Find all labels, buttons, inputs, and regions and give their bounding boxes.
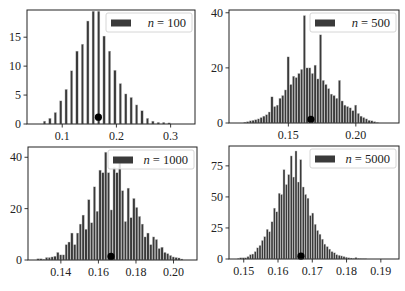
histogram-bar <box>81 44 83 124</box>
histogram-bar <box>273 208 275 259</box>
histogram-bar <box>325 84 327 123</box>
histogram-bar <box>59 255 61 260</box>
y-tick-label: 75 <box>211 159 223 173</box>
histogram-bar <box>92 11 94 124</box>
y-tick-label: 40 <box>211 6 223 20</box>
histogram-bar <box>290 156 292 259</box>
panel-n-100: n = 100 0.10.20.3051015n = 100 <box>9 10 195 143</box>
histogram-bar <box>259 245 261 259</box>
histogram-bar <box>130 218 132 260</box>
histogram-bar <box>293 177 295 259</box>
histogram-bar <box>97 11 99 124</box>
x-tick-label: 0.15 <box>233 264 254 278</box>
histogram-bar <box>271 222 273 259</box>
histogram-bar <box>260 117 262 123</box>
histogram-bar <box>324 244 326 259</box>
histogram-bar <box>288 175 290 259</box>
legend-text: n = 1000 <box>143 153 188 167</box>
histogram-bar <box>107 173 109 260</box>
histogram-bar <box>317 230 319 259</box>
histogram-bar <box>141 224 143 260</box>
histogram-bar <box>79 224 81 260</box>
histogram-bar <box>363 117 365 123</box>
histogram-bar <box>352 111 354 123</box>
histogram-bar <box>263 116 265 123</box>
y-tick-label: 25 <box>211 221 223 235</box>
histogram-bar <box>166 254 168 260</box>
histogram-bar <box>65 245 67 260</box>
panel-n-1000: n = 1000 0.140.160.180.2002040n = 1000 <box>10 147 197 279</box>
histogram-bar <box>261 240 263 259</box>
histogram-bar <box>164 252 166 260</box>
legend: n = 500 <box>310 13 396 32</box>
histogram-bar <box>327 89 329 123</box>
histogram-bar <box>49 118 51 124</box>
histogram-bar <box>169 255 171 260</box>
histogram-bar <box>330 94 332 123</box>
histogram-bar <box>309 216 311 259</box>
histogram-bar <box>54 112 56 124</box>
histogram-bar <box>333 95 335 123</box>
legend: n = 1000 <box>108 150 194 169</box>
histogram-bar <box>130 97 132 124</box>
histogram-bar <box>271 97 273 123</box>
x-tick-label: 0.16 <box>268 264 289 278</box>
y-tick-label: 40 <box>10 150 22 164</box>
y-tick-label: 0 <box>217 116 223 130</box>
histogram-figure: n = 100 0.10.20.3051015n = 100 n = 500 0… <box>0 0 405 291</box>
histogram-bar <box>127 188 129 260</box>
histogram-bar <box>254 252 256 259</box>
legend-text: n = 100 <box>148 16 186 30</box>
histogram-bar <box>365 119 367 123</box>
histogram-bar <box>110 210 112 260</box>
histogram-bar <box>76 233 78 260</box>
histogram-bar <box>354 105 356 123</box>
mean-marker <box>307 116 314 123</box>
histogram-bar <box>336 255 338 259</box>
histogram-bar <box>287 57 289 123</box>
y-tick-label: 0 <box>15 117 21 131</box>
histogram-bar <box>317 79 319 123</box>
histogram-bar <box>329 249 331 259</box>
histogram-bar <box>292 76 294 123</box>
histogram-bar <box>344 105 346 123</box>
histogram-bar <box>74 245 76 260</box>
histogram-bar <box>314 65 316 123</box>
histogram-bar <box>124 221 126 260</box>
y-tick-label: 10 <box>9 59 21 73</box>
histogram-bar <box>158 248 160 260</box>
legend-swatch <box>113 157 133 164</box>
histogram-bar <box>309 68 311 123</box>
y-tick-label: 20 <box>211 61 223 75</box>
histogram-bar <box>105 152 107 260</box>
histogram-bar <box>85 229 87 260</box>
mean-marker <box>95 114 102 121</box>
histogram-bar <box>274 106 276 123</box>
histogram-bar <box>141 111 143 124</box>
legend-text: n = 5000 <box>345 152 390 166</box>
histogram-bar <box>252 254 254 259</box>
y-tick-label: 50 <box>211 190 223 204</box>
y-tick-label: 20 <box>10 202 22 216</box>
histogram-bar <box>150 245 152 260</box>
histogram-bar <box>321 239 323 259</box>
legend-swatch <box>315 20 335 27</box>
histogram-bar <box>268 112 270 123</box>
histogram-bar <box>161 247 163 260</box>
histogram-bar <box>136 207 138 260</box>
histogram-bar <box>70 71 72 124</box>
x-tick-label: 0.16 <box>88 265 109 279</box>
histogram-bar <box>283 170 285 259</box>
histogram-bar <box>266 229 268 259</box>
histogram-bar <box>282 95 284 123</box>
histogram-bar <box>257 119 259 123</box>
y-tick-label: 5 <box>15 88 21 102</box>
histogram-bar <box>62 255 64 260</box>
legend: n = 100 <box>106 13 192 32</box>
histogram-bar <box>307 198 309 259</box>
panel-n-5000: n = 5000 0.150.160.170.180.190255075n = … <box>211 146 399 278</box>
histogram-bar <box>76 51 78 124</box>
x-tick-label: 0.1 <box>55 129 70 143</box>
histogram-bar <box>102 173 104 260</box>
histogram-bar <box>284 90 286 123</box>
